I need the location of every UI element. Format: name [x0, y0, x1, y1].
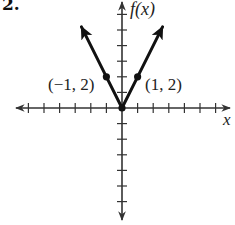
point-label-right: (1, 2): [145, 75, 182, 94]
point-label-left: (−1, 2): [48, 75, 94, 94]
function-graph: f(x) x (−1, 2) (1, 2): [0, 0, 235, 225]
curve-right-branch: [122, 27, 163, 108]
data-point: [103, 73, 110, 80]
data-point: [134, 73, 141, 80]
y-axis-label: f(x): [130, 0, 155, 20]
curve-left-branch: [81, 27, 122, 108]
data-point: [118, 104, 125, 111]
x-axis-label: x: [222, 110, 231, 129]
